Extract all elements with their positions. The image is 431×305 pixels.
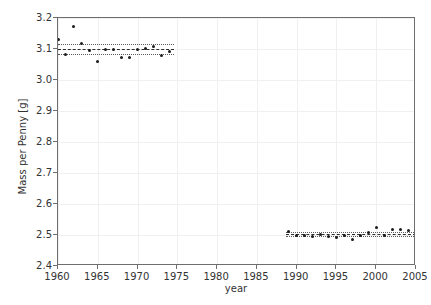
data-point [367,231,370,234]
x-tick-mark [256,265,257,269]
data-point [303,234,306,237]
data-point [152,45,155,48]
data-point [287,230,290,233]
x-tick-label: 1975 [164,271,189,282]
y-tick-label: 2.7 [36,167,52,178]
y-tick-label: 2.4 [36,260,52,271]
data-point [112,48,115,51]
x-tick-label: 1985 [243,271,268,282]
reference-line-zinc-upper-band [286,232,415,233]
data-point [351,238,354,241]
x-tick-label: 1990 [283,271,308,282]
data-point [120,56,123,59]
data-point [391,228,394,231]
data-point [72,25,75,28]
x-tick-mark [176,265,177,269]
data-point [160,54,163,57]
x-tick-mark [97,265,98,269]
x-tick-mark [375,265,376,269]
data-point [327,235,330,238]
x-tick-mark [137,265,138,269]
y-tick-label: 2.9 [36,105,52,116]
reference-line-copper-upper-band [58,44,174,45]
x-tick-mark [57,265,58,269]
gridline-vertical [336,18,337,264]
y-tick-label: 3.1 [36,43,52,54]
x-tick-label: 1995 [323,271,348,282]
data-point [399,228,402,231]
gridline-horizontal [58,18,414,19]
y-tick-mark [53,203,57,204]
gridline-horizontal [58,142,414,143]
gridline-horizontal [58,80,414,81]
data-point [383,234,386,237]
y-tick-label: 2.8 [36,136,52,147]
y-tick-mark [53,234,57,235]
data-point [168,50,171,53]
gridline-vertical [177,18,178,264]
data-point [343,234,346,237]
data-point [335,236,338,239]
gridline-horizontal [58,111,414,112]
gridline-horizontal [58,204,414,205]
y-tick-mark [53,265,57,266]
reference-line-copper-lower-band [58,54,174,55]
y-tick-mark [53,141,57,142]
y-tick-mark [53,17,57,18]
gridline-horizontal [58,173,414,174]
gridline-vertical [297,18,298,264]
data-point [96,60,99,63]
x-tick-mark [296,265,297,269]
x-tick-mark [415,265,416,269]
data-point [104,48,107,51]
x-tick-mark [216,265,217,269]
data-point [375,226,378,229]
figure: 1960196519701975198019851990199520002005… [0,0,431,305]
plot-area [57,17,415,265]
y-tick-mark [53,172,57,173]
data-point [88,49,91,52]
y-tick-label: 3.0 [36,74,52,85]
data-point [319,233,322,236]
gridline-vertical [217,18,218,264]
data-point [136,48,139,51]
x-axis-label: year [57,283,415,294]
y-tick-mark [53,110,57,111]
x-tick-label: 2000 [362,271,387,282]
data-point [144,47,147,50]
x-tick-label: 2005 [402,271,427,282]
y-tick-mark [53,48,57,49]
data-point [128,56,131,59]
y-tick-mark [53,79,57,80]
data-point [359,234,362,237]
data-point [311,235,314,238]
y-tick-label: 3.2 [36,12,52,23]
gridline-vertical [257,18,258,264]
data-point [57,38,60,41]
x-tick-label: 1970 [124,271,149,282]
y-tick-label: 2.5 [36,229,52,240]
y-axis-label: Mass per Penny [g] [17,67,28,227]
x-tick-label: 1965 [84,271,109,282]
reference-line-copper-mean [58,49,174,50]
x-tick-mark [335,265,336,269]
x-tick-label: 1980 [203,271,228,282]
y-tick-label: 2.6 [36,198,52,209]
